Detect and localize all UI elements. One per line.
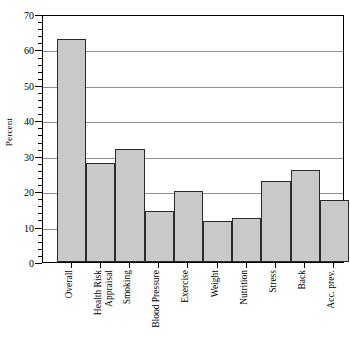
y-axis-tick [35, 121, 42, 122]
y-axis-minor-tick [38, 58, 42, 59]
bar [203, 221, 232, 262]
x-axis-tick [333, 263, 334, 268]
y-axis-tick-label: 0 [0, 258, 34, 269]
y-axis-minor-tick [38, 220, 42, 221]
x-axis-tick-label: Weight [210, 270, 224, 356]
y-axis-tick [35, 263, 42, 264]
y-axis-tick [35, 15, 42, 16]
x-axis-tick-label: Overall [64, 270, 78, 356]
x-axis-tick-label: Back [297, 270, 311, 356]
plot-area [42, 15, 344, 263]
x-axis-tick-label-text: Health Risk Appraisal [93, 270, 114, 356]
x-axis-tick-label-text: Overall [64, 270, 75, 356]
y-axis-minor-tick [38, 36, 42, 37]
x-axis-tick [71, 263, 72, 268]
y-axis-minor-tick [38, 249, 42, 250]
x-axis-tick [217, 263, 218, 268]
x-axis-tick-label: Smoking [122, 270, 136, 356]
y-axis-minor-tick [38, 65, 42, 66]
x-axis-tick [187, 263, 188, 268]
y-axis-minor-tick [38, 256, 42, 257]
bar [174, 191, 203, 262]
y-axis-minor-tick [38, 114, 42, 115]
x-axis-tick-label: Stress [268, 270, 282, 356]
bar [86, 163, 115, 262]
y-axis-tick-label: 10 [0, 222, 34, 233]
bar-chart-figure: Percent OverallHealth Risk AppraisalSmok… [0, 0, 350, 357]
y-axis-minor-tick [38, 206, 42, 207]
x-axis-tick-label-text: Back [297, 270, 308, 356]
x-axis-tick-label: Nutrition [239, 270, 253, 356]
y-axis-minor-tick [38, 150, 42, 151]
bar [291, 170, 320, 262]
y-axis-minor-tick [38, 235, 42, 236]
x-axis-tick-label: Blood Pressure [151, 270, 165, 356]
y-axis-minor-tick [38, 143, 42, 144]
x-axis-tick [304, 263, 305, 268]
x-axis-tick [158, 263, 159, 268]
bar-series [43, 16, 343, 262]
x-axis-tick [275, 263, 276, 268]
y-axis-minor-tick [38, 93, 42, 94]
x-axis-tick [100, 263, 101, 268]
y-axis-tick-label: 40 [0, 116, 34, 127]
bar [57, 39, 86, 262]
x-axis-tick-label-text: Nutrition [239, 270, 250, 356]
y-axis-minor-tick [38, 29, 42, 30]
bar [145, 211, 174, 262]
x-axis-tick-label-text: Exercise [180, 270, 191, 356]
y-axis-minor-tick [38, 100, 42, 101]
y-axis-minor-tick [38, 107, 42, 108]
y-axis-minor-tick [38, 135, 42, 136]
y-axis-minor-tick [38, 72, 42, 73]
y-axis-minor-tick [38, 22, 42, 23]
x-axis-tick [246, 263, 247, 268]
y-axis-minor-tick [38, 242, 42, 243]
bar [261, 181, 290, 262]
y-axis-minor-tick [38, 213, 42, 214]
x-axis-tick-label-text: Acc. prev. [326, 270, 337, 356]
bar [320, 200, 349, 262]
x-axis-tick-label: Health Risk Appraisal [93, 270, 107, 356]
y-axis-tick [35, 228, 42, 229]
x-axis-tick-label-text: Blood Pressure [151, 270, 162, 356]
y-axis-minor-tick [38, 178, 42, 179]
x-axis-tick [129, 263, 130, 268]
y-axis-tick-label: 50 [0, 80, 34, 91]
bar [232, 218, 261, 262]
y-axis-tick [35, 50, 42, 51]
y-axis-tick-label: 20 [0, 187, 34, 198]
bar [115, 149, 144, 262]
y-axis-minor-tick [38, 171, 42, 172]
y-axis-tick-label: 30 [0, 151, 34, 162]
x-axis-tick-label: Acc. prev. [326, 270, 340, 356]
y-axis-tick-label: 60 [0, 45, 34, 56]
y-axis-minor-tick [38, 43, 42, 44]
x-axis-tick-label-text: Weight [210, 270, 221, 356]
y-axis-minor-tick [38, 164, 42, 165]
y-axis-tick [35, 192, 42, 193]
y-axis-minor-tick [38, 79, 42, 80]
y-axis-minor-tick [38, 199, 42, 200]
x-axis-tick-label-text: Smoking [122, 270, 133, 356]
x-axis-tick-label-text: Stress [268, 270, 279, 356]
y-axis-tick-label: 70 [0, 10, 34, 21]
y-axis-tick [35, 157, 42, 158]
y-axis-tick [35, 86, 42, 87]
y-axis-minor-tick [38, 185, 42, 186]
y-axis-minor-tick [38, 128, 42, 129]
x-axis-tick-label: Exercise [180, 270, 194, 356]
